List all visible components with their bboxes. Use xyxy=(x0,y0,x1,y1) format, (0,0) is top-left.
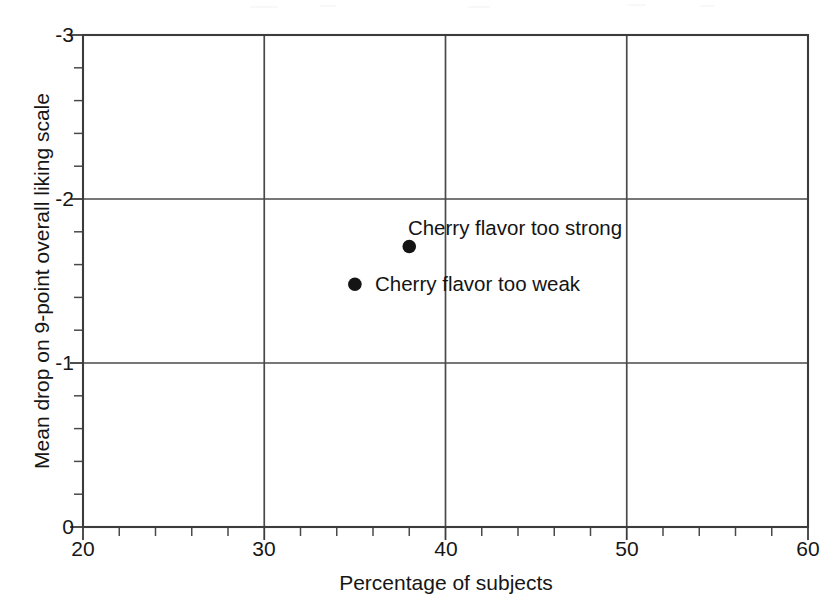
y-tick-label-0: -3 xyxy=(46,23,74,47)
point-label-cherry-flavor-too-strong: Cherry flavor too strong xyxy=(408,216,622,240)
data-point-0 xyxy=(402,240,416,254)
scan-artifact xyxy=(628,4,646,6)
scan-artifact xyxy=(468,6,490,8)
x-tick-label-0: 20 xyxy=(71,537,94,561)
point-label-cherry-flavor-too-weak: Cherry flavor too weak xyxy=(375,272,580,296)
scatter-plot-canvas xyxy=(0,0,838,612)
x-axis-title: Percentage of subjects xyxy=(339,571,553,595)
x-tick-label-3: 50 xyxy=(615,537,638,561)
data-point-1 xyxy=(348,277,362,291)
x-tick-label-2: 40 xyxy=(434,537,457,561)
y-tick-label-3: 0 xyxy=(46,515,74,539)
chart-figure: 20 30 40 50 60 -3 -2 -1 0 Percentage of … xyxy=(0,0,838,612)
y-axis-title: Mean drop on 9-point overall liking scal… xyxy=(30,93,54,469)
x-tick-label-1: 30 xyxy=(252,537,275,561)
scan-artifact xyxy=(320,5,336,7)
scan-artifact xyxy=(700,5,714,7)
scan-artifact xyxy=(250,6,278,8)
x-tick-label-4: 60 xyxy=(796,537,819,561)
